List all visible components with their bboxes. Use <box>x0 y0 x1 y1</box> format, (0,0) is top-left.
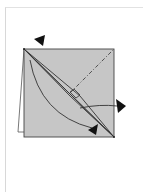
origami-diagram <box>0 0 143 192</box>
corner-dot-top-left <box>23 48 25 50</box>
corner-dot-bottom-right <box>113 136 115 138</box>
pull-out-arrow-icon <box>116 99 126 113</box>
fold-direction-arrow-icon <box>34 35 45 46</box>
back-flap-edge <box>18 49 24 132</box>
